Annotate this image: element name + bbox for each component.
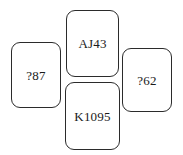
card-south-label: K1095 bbox=[74, 110, 110, 123]
card-east[interactable]: ?62 bbox=[122, 48, 172, 112]
card-east-label: ?62 bbox=[137, 74, 156, 87]
card-north-label: AJ43 bbox=[78, 37, 106, 50]
card-west[interactable]: ?87 bbox=[11, 42, 61, 108]
card-west-label: ?87 bbox=[26, 69, 45, 82]
card-south[interactable]: K1095 bbox=[65, 82, 120, 150]
card-layout-diagram: AJ43 ?87 ?62 K1095 bbox=[0, 0, 183, 155]
card-north[interactable]: AJ43 bbox=[66, 10, 119, 77]
